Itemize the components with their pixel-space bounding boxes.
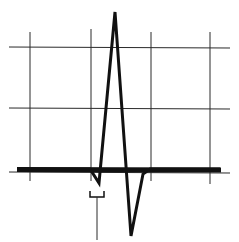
ecg-diagram bbox=[0, 0, 239, 242]
qrs-trace bbox=[17, 12, 220, 236]
waveform-canvas bbox=[0, 0, 239, 242]
grid-horizontal-line bbox=[9, 108, 230, 109]
baseline-segment bbox=[17, 170, 221, 171]
q-wave-duration-marker bbox=[90, 191, 104, 240]
grid-horizontal-line bbox=[9, 47, 230, 48]
grid-lines bbox=[9, 29, 230, 184]
